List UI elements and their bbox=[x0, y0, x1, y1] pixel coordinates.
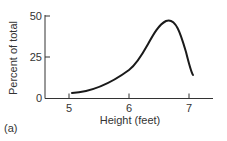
x-axis-label: Height (feet) bbox=[100, 114, 161, 126]
x-tick-label: 6 bbox=[126, 102, 132, 114]
y-tick-label: 0 bbox=[36, 92, 42, 104]
y-tick-label: 50 bbox=[30, 10, 42, 22]
x-tick-label: 7 bbox=[186, 102, 192, 114]
chart: Percent of total 50 25 0 5 6 7 Height (f… bbox=[0, 0, 227, 141]
panel-label: (a) bbox=[4, 122, 17, 134]
x-tick-label: 5 bbox=[66, 102, 72, 114]
distribution-curve bbox=[72, 20, 193, 93]
y-axis-label: Percent of total bbox=[7, 21, 19, 95]
y-tick-label: 25 bbox=[30, 51, 42, 63]
